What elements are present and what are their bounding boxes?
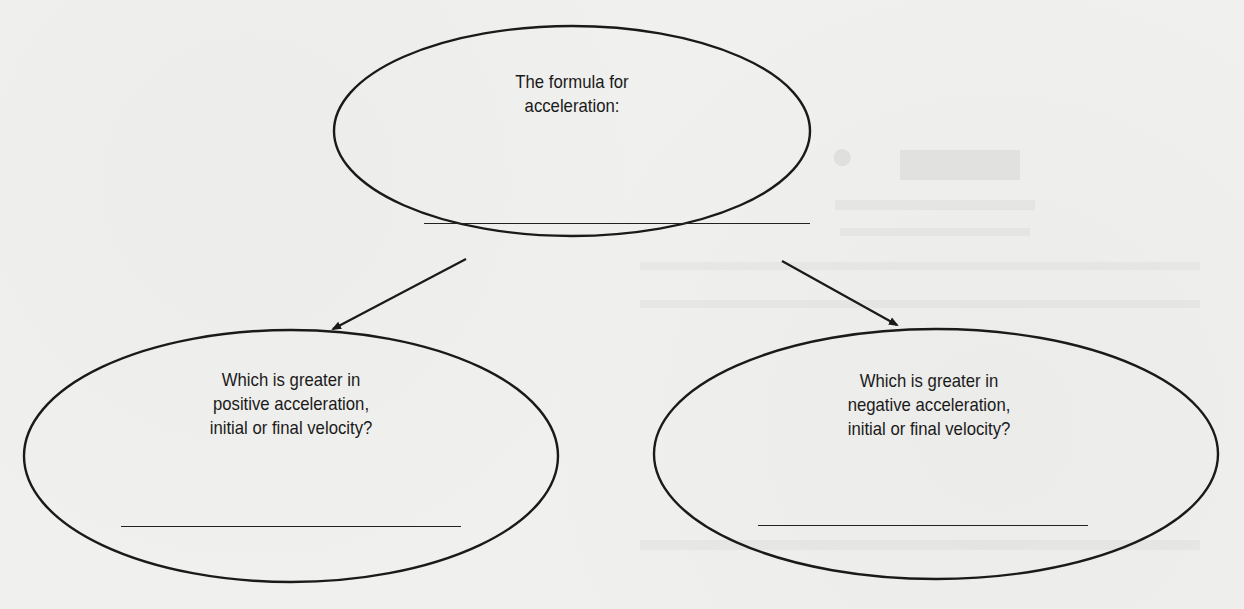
left-node-line-2: positive acceleration, — [177, 392, 406, 416]
right-node-line-1: Which is greater in — [815, 369, 1044, 393]
top-node-ellipse — [334, 26, 810, 236]
right-node-label: Which is greater in negative acceleratio… — [815, 369, 1044, 441]
left-node-label: Which is greater in positive acceleratio… — [177, 368, 406, 440]
top-node-line-1: The formula for — [458, 70, 687, 94]
right-node-line-3: initial or final velocity? — [815, 417, 1044, 441]
top-node-answer-blank[interactable] — [424, 223, 810, 224]
arrow-to-left-node — [333, 259, 466, 329]
left-node-answer-blank[interactable] — [121, 526, 461, 527]
right-node-ellipse — [654, 329, 1218, 579]
left-node-line-1: Which is greater in — [177, 368, 406, 392]
right-node-line-2: negative acceleration, — [815, 393, 1044, 417]
left-node-line-3: initial or final velocity? — [177, 416, 406, 440]
top-node-label: The formula for acceleration: — [458, 70, 687, 118]
arrow-to-right-node — [782, 261, 897, 325]
right-node-answer-blank[interactable] — [758, 525, 1088, 526]
top-node-line-2: acceleration: — [458, 94, 687, 118]
